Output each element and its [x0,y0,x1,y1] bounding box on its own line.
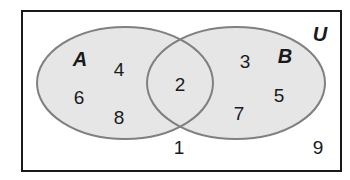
element-a-only: 6 [74,88,85,107]
universe-label: U [313,24,327,44]
set-a-label: A [73,49,87,69]
element-outside: 9 [313,138,324,157]
set-b-label: B [278,46,292,66]
element-b-only: 5 [274,86,285,105]
element-a-only: 8 [114,108,125,127]
element-a-only: 4 [114,60,125,79]
element-b-only: 7 [234,104,245,123]
element-outside: 1 [174,138,185,157]
element-intersection: 2 [175,75,186,94]
element-b-only: 3 [240,52,251,71]
